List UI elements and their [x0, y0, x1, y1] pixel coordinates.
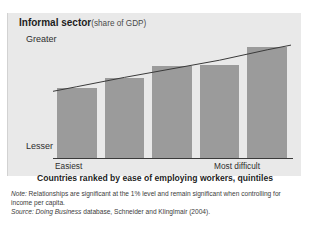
chart-title-main: Informal sector	[19, 17, 91, 28]
figure-notes: Note: Relationships are significant at t…	[11, 190, 303, 217]
note-line: Note: Relationships are significant at t…	[11, 190, 303, 207]
chart-title-subtitle: (share of GDP)	[91, 19, 146, 28]
x-axis-line	[53, 158, 293, 159]
plot-area	[53, 35, 291, 158]
source-label: Source:	[11, 208, 34, 215]
trend-line	[53, 35, 291, 158]
x-tick-easiest: Easiest	[55, 161, 82, 171]
note-text: Relationships are significant at the 1% …	[11, 190, 281, 206]
source-publication: Doing Business	[34, 208, 82, 215]
chart-panel: Informal sector(share of GDP) Greater Le…	[7, 13, 301, 176]
y-axis-label-lesser: Lesser	[26, 141, 53, 151]
source-text: database, Schneider and Klinglmair (2004…	[81, 208, 210, 215]
source-line: Source: Doing Business database, Schneid…	[11, 208, 303, 217]
chart-title: Informal sector(share of GDP)	[19, 17, 146, 28]
figure-container: Informal sector(share of GDP) Greater Le…	[0, 0, 311, 233]
x-axis-title: Countries ranked by ease of employing wo…	[8, 173, 302, 183]
x-tick-most-difficult: Most difficult	[214, 161, 260, 171]
note-label: Note:	[11, 190, 27, 197]
clipped-top-text	[8, 0, 303, 6]
y-axis-label-greater: Greater	[26, 34, 57, 44]
